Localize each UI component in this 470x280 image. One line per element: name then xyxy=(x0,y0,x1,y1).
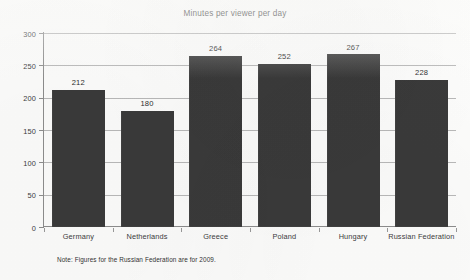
plot-area xyxy=(44,33,456,227)
y-axis-tick-label-150: 150 xyxy=(4,127,36,136)
y-axis-tick-label-100: 100 xyxy=(4,159,36,168)
x-axis-label-netherlands: Netherlands xyxy=(113,232,182,241)
bar-value-germany: 212 xyxy=(52,78,105,87)
gridline-250 xyxy=(44,65,456,66)
bar-poland xyxy=(258,64,311,227)
bar-germany xyxy=(52,90,105,227)
x-axis-label-poland: Poland xyxy=(250,232,319,241)
bar-chart: Minutes per viewer per day 300 250 200 1… xyxy=(0,0,470,280)
x-axis-label-russian-federation: Russian Federation xyxy=(383,232,459,241)
y-axis-tick-label-0: 0 xyxy=(4,224,36,233)
bar-hungary xyxy=(327,54,380,227)
bar-value-greece: 264 xyxy=(189,44,242,53)
chart-footnote: Note: Figures for the Russian Federation… xyxy=(57,256,216,263)
bar-value-russian-federation: 228 xyxy=(395,68,448,77)
gridline-300 xyxy=(44,33,456,34)
x-axis-label-germany: Germany xyxy=(44,232,113,241)
bar-value-netherlands: 180 xyxy=(121,99,174,108)
bar-russian-federation xyxy=(395,80,448,227)
y-axis-tick-label-200: 200 xyxy=(4,94,36,103)
x-axis-label-hungary: Hungary xyxy=(319,232,388,241)
bar-value-poland: 252 xyxy=(258,52,311,61)
y-axis-tick-label-250: 250 xyxy=(4,62,36,71)
y-axis-tick-label-300: 300 xyxy=(4,30,36,39)
x-axis-label-greece: Greece xyxy=(181,232,250,241)
bar-greece xyxy=(189,56,242,227)
bar-value-hungary: 267 xyxy=(327,43,380,52)
chart-title: Minutes per viewer per day xyxy=(0,9,470,18)
bar-netherlands xyxy=(121,111,174,227)
y-axis-tick-label-50: 50 xyxy=(4,191,36,200)
